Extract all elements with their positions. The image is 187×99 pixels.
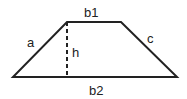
label-h: h xyxy=(72,45,79,60)
label-b2: b2 xyxy=(89,83,103,98)
trapezoid-diagram: b1 a h c b2 xyxy=(0,0,187,99)
label-a: a xyxy=(27,35,35,50)
label-c: c xyxy=(147,31,154,46)
label-b1: b1 xyxy=(84,5,98,20)
